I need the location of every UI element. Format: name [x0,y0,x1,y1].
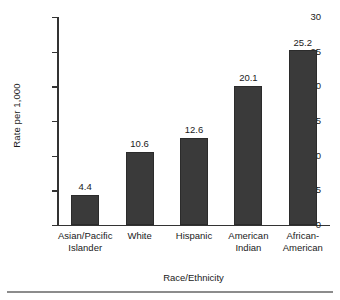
bar[interactable] [234,86,262,225]
x-axis-category-label: White [112,230,166,242]
bar[interactable] [289,50,317,225]
x-axis-category-label-line: Asian/Pacific [58,230,112,242]
x-axis-category-label-line: Indian [221,242,275,254]
y-axis-tick [52,225,57,226]
x-axis-category-label-line: Islander [58,242,112,254]
bottom-divider [7,291,333,293]
plot-area: 051015202530 4.410.612.620.125.2 [57,17,330,226]
x-axis-category-label-line: American [276,242,330,254]
y-axis-tick [52,17,57,18]
y-axis-tick [52,52,57,53]
y-axis-title: Rate per 1,000 [11,61,22,171]
x-axis-category-label-line: African- [276,230,330,242]
bar-group[interactable]: 10.6 [112,17,166,225]
x-axis-category-label-line: White [112,230,166,242]
bar-value-label: 25.2 [294,38,313,48]
bar-group[interactable]: 20.1 [221,17,275,225]
bars-layer: 4.410.612.620.125.2 [58,17,330,225]
bar-chart-figure: Rate per 1,000 051015202530 4.410.612.62… [0,0,340,300]
bar[interactable] [126,152,154,225]
x-axis-category-label: AmericanIndian [221,230,275,253]
bar-group[interactable]: 12.6 [167,17,221,225]
bar[interactable] [180,138,208,225]
bar-value-label: 4.4 [79,182,92,192]
y-axis-tick [52,190,57,191]
bar-group[interactable]: 25.2 [276,17,330,225]
y-axis-tick [52,156,57,157]
bar-group[interactable]: 4.4 [58,17,112,225]
bar[interactable] [71,195,99,226]
x-axis-category-label: Asian/PacificIslander [58,230,112,253]
x-axis-category-label-line: American [221,230,275,242]
x-axis-title: Race/Ethnicity [57,272,330,283]
bar-value-label: 20.1 [239,73,258,83]
x-axis-category-labels: Asian/PacificIslanderWhiteHispanicAmeric… [58,230,330,260]
x-axis-category-label-line: Hispanic [167,230,221,242]
bar-value-label: 10.6 [130,139,149,149]
x-axis-category-label: Hispanic [167,230,221,242]
bar-value-label: 12.6 [185,125,204,135]
x-axis-category-label: African-American [276,230,330,253]
y-axis-tick [52,121,57,122]
y-axis-tick [52,86,57,87]
